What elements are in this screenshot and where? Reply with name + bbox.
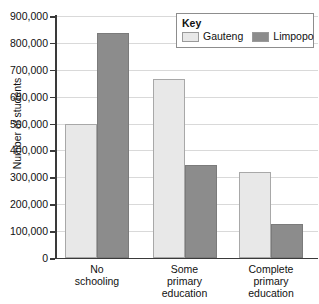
y-tick-mark	[50, 150, 55, 152]
legend-swatch-limpopo	[252, 32, 269, 42]
bar-chart: Number of students 0100,000200,000300,00…	[0, 0, 319, 304]
y-tick-label: 400,000	[0, 145, 48, 156]
y-tick-mark	[50, 258, 55, 260]
bar-limpopo-0	[97, 33, 129, 258]
y-tick-mark	[50, 124, 55, 126]
x-axis-label-1: Someprimaryeducation	[137, 263, 233, 299]
bar-limpopo-1	[185, 165, 217, 258]
y-tick-mark	[50, 231, 55, 233]
plot-area	[56, 16, 318, 258]
y-tick-mark	[50, 70, 55, 72]
bar-gauteng-2	[239, 172, 271, 258]
y-tick-mark	[50, 97, 55, 99]
legend-swatch-gauteng	[182, 32, 199, 42]
legend-label-limpopo: Limpopo	[273, 31, 313, 42]
y-tick-label: 200,000	[0, 199, 48, 210]
x-axis-line	[55, 258, 318, 260]
y-tick-label: 100,000	[0, 226, 48, 237]
bar-gauteng-1	[153, 79, 185, 258]
bar-limpopo-2	[271, 224, 303, 258]
y-tick-mark	[50, 177, 55, 179]
grid-line	[56, 70, 318, 71]
y-tick-label: 600,000	[0, 92, 48, 103]
y-tick-label: 900,000	[0, 11, 48, 22]
y-tick-mark	[50, 16, 55, 18]
legend-entries: GautengLimpopo	[182, 31, 308, 42]
legend-label-gauteng: Gauteng	[203, 31, 243, 42]
y-tick-label: 300,000	[0, 172, 48, 183]
y-tick-label: 0	[0, 253, 48, 264]
y-tick-label: 700,000	[0, 65, 48, 76]
grid-line	[56, 97, 318, 98]
y-tick-label: 500,000	[0, 119, 48, 130]
legend: Key GautengLimpopo	[176, 13, 314, 48]
legend-entry-gauteng: Gauteng	[182, 31, 243, 42]
x-axis-label-2: Completeprimaryeducation	[223, 263, 319, 299]
y-tick-label: 800,000	[0, 38, 48, 49]
x-axis-label-0: Noschooling	[49, 263, 145, 287]
y-tick-mark	[50, 43, 55, 45]
legend-title: Key	[182, 17, 308, 29]
y-axis-line	[55, 15, 57, 259]
y-tick-mark	[50, 204, 55, 206]
bar-gauteng-0	[65, 124, 97, 258]
legend-entry-limpopo: Limpopo	[252, 31, 313, 42]
